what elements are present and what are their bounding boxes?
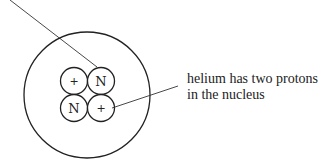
caption-line-2: in the nucleus [187,87,318,103]
pointer-line-upper [10,0,97,67]
caption-text: helium has two protons in the nucleus [187,71,318,103]
particle-top-left: + [61,68,88,95]
particle-bottom-right: + [88,95,115,122]
outer-shell-circle [24,32,150,158]
particle-label: N [68,101,79,116]
particle-label: + [96,102,105,115]
particle-top-right: N [88,68,115,95]
caption-line-1: helium has two protons [187,71,318,87]
pointer-line-caption [112,86,178,108]
particle-label: N [95,74,106,89]
particle-label: + [69,75,78,88]
particle-bottom-left: N [61,95,88,122]
